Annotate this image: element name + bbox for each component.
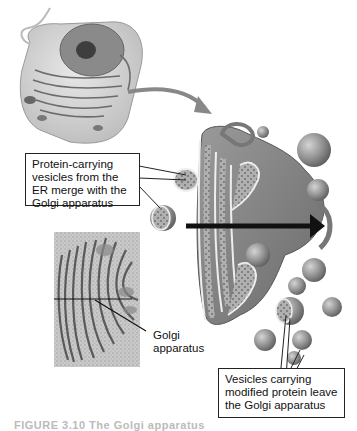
zoom-arrow (128, 89, 205, 108)
golgi-micrograph-label: Golgi apparatus (153, 329, 204, 355)
electron-micrograph (54, 232, 146, 367)
callout-leaving-vesicles: Vesicles carrying modified protein leave… (218, 368, 345, 418)
callout-leaving-vesicles-text: Vesicles carrying modified protein leave… (225, 373, 338, 411)
cell-illustration (20, 8, 142, 143)
figure-caption: FIGURE 3.10 The Golgi apparatus (14, 419, 205, 431)
golgi-label-line2: apparatus (153, 342, 204, 355)
golgi-label-line1: Golgi (153, 329, 204, 342)
callout-er-vesicles-text: Protein-carrying vesicles from the ER me… (32, 158, 127, 209)
callout-er-vesicles: Protein-carrying vesicles from the ER me… (25, 153, 140, 206)
cut-vesicle-arriving (150, 205, 176, 231)
